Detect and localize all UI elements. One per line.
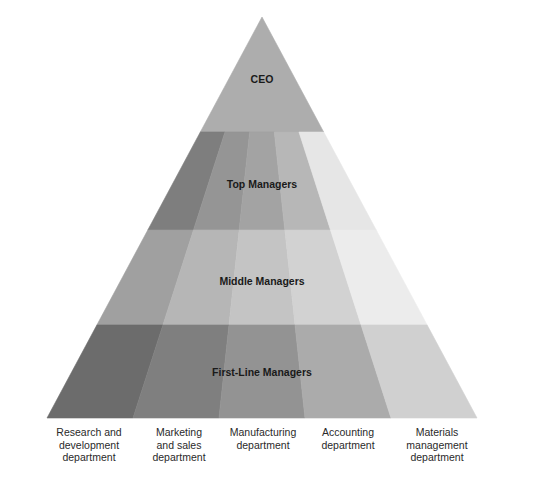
tier-label-middle-managers: Middle Managers (219, 275, 304, 287)
org-pyramid: CEO Top Managers Middle Managers First-L… (0, 0, 547, 477)
dept-label-research-development: Research and development department (41, 426, 137, 464)
tier-label-top-managers: Top Managers (227, 178, 298, 190)
tier-label-ceo: CEO (251, 73, 274, 85)
dept-label-marketing-sales: Marketing and sales department (131, 426, 227, 464)
dept-label-materials-management: Materials management department (389, 426, 485, 464)
tier-label-first-line-managers: First-Line Managers (212, 366, 312, 378)
dept-label-accounting: Accounting department (300, 426, 396, 451)
dept-label-manufacturing: Manufacturing department (215, 426, 311, 451)
